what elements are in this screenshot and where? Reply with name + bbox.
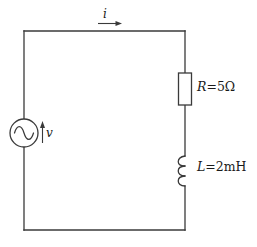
circuit-schematic-canvas (0, 0, 257, 247)
voltage-arrow (40, 121, 45, 143)
voltage-arrow-head (40, 121, 45, 128)
current-symbol: i (103, 7, 107, 21)
inductor-symbol (178, 156, 185, 186)
inductor-value: 2 (216, 159, 224, 174)
inductor-coil-3 (178, 176, 185, 186)
inductor-unit: mH (224, 159, 247, 174)
inductor-label: L=2mH (197, 161, 247, 174)
inductor-coil-1 (178, 156, 185, 166)
current-label: i (103, 8, 107, 20)
inductor-coil-2 (178, 166, 185, 176)
current-arrow-head (116, 21, 123, 26)
inductor-equals: = (205, 159, 215, 174)
resistor-equals: = (206, 79, 216, 94)
resistor-symbol (179, 73, 192, 105)
current-arrow (98, 21, 122, 26)
resistor-label: R=5Ω (197, 81, 235, 94)
resistor-symbol-text: R (197, 79, 206, 94)
circuit-diagram: i v R=5Ω L=2mH (0, 0, 257, 247)
ac-voltage-source (10, 119, 38, 147)
resistor-unit: Ω (225, 79, 235, 94)
resistor-box (179, 73, 192, 105)
voltage-label: v (46, 127, 53, 139)
voltage-symbol: v (46, 126, 53, 140)
resistor-value: 5 (217, 79, 225, 94)
